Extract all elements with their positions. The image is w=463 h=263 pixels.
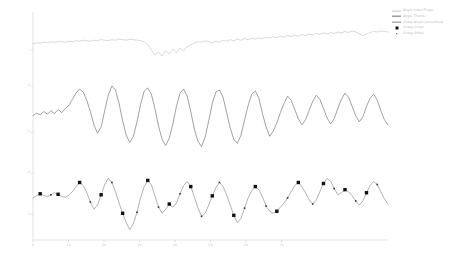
legend-item-label: Grasp Angle (smoothed)	[403, 21, 443, 24]
x-tick-label: 60	[236, 244, 256, 247]
legend-item[interactable]: Grasp Onset	[392, 25, 462, 30]
data-series-group	[33, 31, 388, 230]
event-marker	[78, 181, 81, 184]
series-line	[33, 31, 388, 56]
x-tick-label: 30	[130, 244, 150, 247]
legend-point-marker-icon	[392, 31, 401, 36]
event-marker	[333, 188, 335, 190]
chart-figure: 01020304050607010-1-2-3 Angle Index Fing…	[0, 0, 463, 263]
series-line	[33, 178, 388, 229]
legend-line-swatch	[392, 20, 401, 25]
event-markers-group	[38, 179, 378, 217]
chart-legend: Angle Index FingerAngle ThumbGrasp Angle…	[392, 8, 462, 37]
legend-item-label: Grasp Onset	[403, 26, 424, 29]
x-tick-label: 0	[23, 244, 43, 247]
event-marker	[201, 216, 203, 218]
event-marker	[158, 206, 160, 208]
y-tick-label: 1	[11, 48, 30, 51]
legend-line-swatch	[392, 8, 401, 13]
event-marker	[265, 205, 267, 207]
legend-square-marker-icon	[392, 25, 401, 30]
event-marker	[254, 185, 257, 188]
legend-item[interactable]: Grasp Offset	[392, 31, 462, 36]
y-tick-label: -2	[11, 171, 30, 174]
legend-item-label: Angle Index Finger	[403, 9, 434, 12]
event-marker	[90, 201, 92, 203]
event-marker	[343, 188, 346, 191]
event-marker	[146, 179, 149, 182]
legend-item-label: Grasp Offset	[403, 32, 424, 35]
legend-item[interactable]: Angle Index Finger	[392, 8, 462, 13]
event-marker	[232, 214, 235, 217]
event-marker	[179, 193, 181, 195]
event-marker	[99, 193, 102, 196]
event-marker	[365, 191, 368, 194]
legend-line-swatch	[392, 14, 401, 19]
event-marker	[297, 181, 300, 184]
plot-canvas	[0, 0, 463, 263]
event-marker	[244, 207, 246, 209]
axis-spines	[33, 12, 388, 240]
event-marker	[168, 202, 171, 205]
y-tick-label: -1	[11, 130, 30, 133]
event-marker	[121, 212, 124, 215]
event-marker	[136, 211, 138, 213]
event-marker	[219, 182, 221, 184]
event-marker	[38, 192, 41, 195]
x-tick-label: 50	[201, 244, 221, 247]
event-marker	[56, 193, 59, 196]
x-tick-label: 40	[165, 244, 185, 247]
x-tick-label: 70	[272, 244, 292, 247]
legend-item-label: Angle Thumb	[403, 15, 425, 18]
legend-item[interactable]: Grasp Angle (smoothed)	[392, 20, 462, 25]
event-marker	[111, 182, 113, 184]
legend-item[interactable]: Angle Thumb	[392, 14, 462, 19]
y-tick-label: -3	[11, 213, 30, 216]
event-marker	[50, 194, 52, 196]
x-tick-label: 10	[59, 244, 79, 247]
event-marker	[376, 184, 378, 186]
x-tick-label: 20	[94, 244, 114, 247]
event-marker	[322, 182, 325, 185]
event-marker	[189, 185, 192, 188]
event-marker	[355, 200, 357, 202]
y-tick-label: 0	[11, 84, 30, 87]
event-marker	[211, 194, 214, 197]
event-marker	[275, 210, 278, 213]
event-marker	[312, 203, 314, 205]
event-marker	[287, 197, 289, 199]
series-line	[33, 86, 388, 147]
